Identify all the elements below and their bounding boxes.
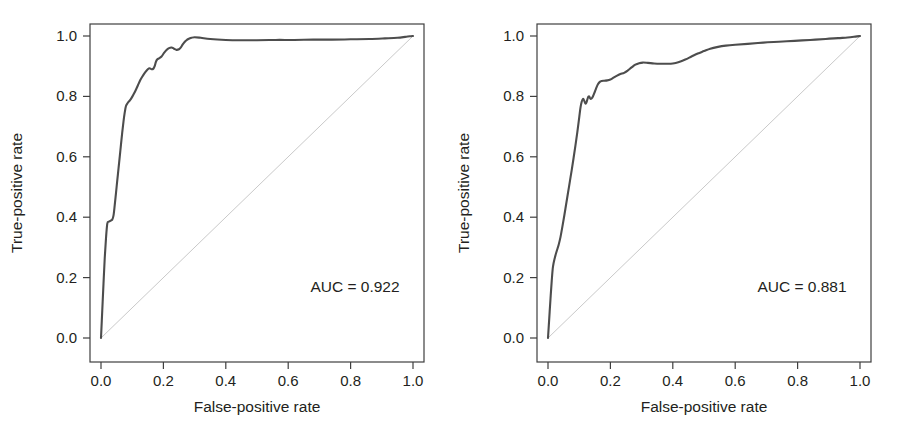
- x-axis-title-right: False-positive rate: [641, 398, 768, 415]
- roc-panel-left: 0.00.20.40.60.81.00.00.20.40.60.81.0 Fal…: [0, 0, 452, 433]
- x-tick-label: 0.2: [153, 372, 174, 389]
- y-tick-label: 0.8: [503, 87, 524, 104]
- x-tick-label: 0.8: [340, 372, 361, 389]
- y-tick-label: 1.0: [56, 27, 77, 44]
- y-tick-label: 0.0: [56, 329, 77, 346]
- y-tick-label: 0.2: [56, 269, 77, 286]
- y-tick-label: 0.4: [503, 208, 524, 225]
- y-tick-label: 0.6: [503, 148, 524, 165]
- axis-ticklabels-right: 0.00.20.40.60.81.00.00.20.40.60.81.0: [503, 27, 870, 389]
- y-axis-title-left: True-positive rate: [8, 133, 25, 253]
- y-tick-label: 1.0: [503, 27, 524, 44]
- roc-panel-right: 0.00.20.40.60.81.00.00.20.40.60.81.0 Fal…: [451, 0, 903, 433]
- y-axis-title-right: True-positive rate: [455, 133, 472, 253]
- roc-figure: 0.00.20.40.60.81.00.00.20.40.60.81.0 Fal…: [0, 0, 903, 433]
- x-tick-label: 1.0: [403, 372, 424, 389]
- x-tick-label: 0.6: [725, 372, 746, 389]
- auc-annotation-left: AUC = 0.922: [310, 278, 399, 295]
- auc-annotation-right: AUC = 0.881: [757, 278, 846, 295]
- y-tick-label: 0.4: [56, 208, 77, 225]
- x-tick-label: 0.2: [600, 372, 621, 389]
- axis-ticklabels-left: 0.00.20.40.60.81.00.00.20.40.60.81.0: [56, 27, 423, 389]
- roc-plot-left-svg: 0.00.20.40.60.81.00.00.20.40.60.81.0 Fal…: [0, 0, 452, 433]
- y-tick-label: 0.6: [56, 148, 77, 165]
- x-tick-label: 0.4: [662, 372, 683, 389]
- x-tick-label: 0.0: [91, 372, 112, 389]
- y-tick-label: 0.2: [503, 269, 524, 286]
- plot-frame-left: [90, 24, 424, 362]
- roc-plot-right-svg: 0.00.20.40.60.81.00.00.20.40.60.81.0 Fal…: [451, 0, 903, 433]
- x-tick-label: 0.4: [215, 372, 236, 389]
- x-axis-title-left: False-positive rate: [194, 398, 321, 415]
- y-tick-label: 0.0: [503, 329, 524, 346]
- axis-ticks-left: [83, 36, 413, 369]
- x-tick-label: 0.6: [278, 372, 299, 389]
- x-tick-label: 0.0: [538, 372, 559, 389]
- plot-frame-right: [537, 24, 871, 362]
- x-tick-label: 0.8: [787, 372, 808, 389]
- axis-ticks-right: [530, 36, 860, 369]
- y-tick-label: 0.8: [56, 87, 77, 104]
- x-tick-label: 1.0: [850, 372, 871, 389]
